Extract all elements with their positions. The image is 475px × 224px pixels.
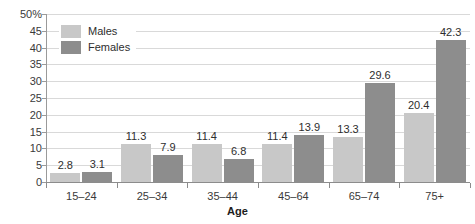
bar-value-label: 11.4 xyxy=(184,131,230,142)
bar-females[interactable] xyxy=(224,159,254,182)
y-axis-labels: 50%454035302520151050 xyxy=(0,0,42,224)
bar-females[interactable] xyxy=(153,155,183,182)
x-axis-tick xyxy=(187,183,188,188)
bar-value-label: 3.1 xyxy=(74,159,120,170)
bar-males[interactable] xyxy=(262,144,292,182)
y-axis-tick-label: 50% xyxy=(0,9,42,20)
bar-value-label: 42.3 xyxy=(428,27,474,38)
legend-label-females: Females xyxy=(88,41,130,53)
x-axis-category-label: 35–44 xyxy=(188,190,258,202)
y-axis-tick-label: 35 xyxy=(0,59,42,70)
chart-legend: Males Females xyxy=(59,21,136,57)
bar-value-label: 11.3 xyxy=(113,131,159,142)
x-axis-category-label: 25–34 xyxy=(117,190,187,202)
bar-females[interactable] xyxy=(82,172,112,182)
y-axis-tick-label: 0 xyxy=(0,177,42,188)
bar-group: 11.413.9 xyxy=(259,14,327,182)
y-axis-line xyxy=(46,14,47,183)
y-axis-tick-label: 45 xyxy=(0,26,42,37)
y-axis-tick-label: 20 xyxy=(0,110,42,121)
legend-swatch-females-icon xyxy=(61,41,81,54)
x-axis-category-label: 75+ xyxy=(400,190,470,202)
bar-group: 13.329.6 xyxy=(330,14,398,182)
x-axis-category-label: 15–24 xyxy=(46,190,116,202)
x-axis-tick xyxy=(258,183,259,188)
y-axis-tick-label: 25 xyxy=(0,93,42,104)
y-axis-tick-label: 5 xyxy=(0,160,42,171)
bar-females[interactable] xyxy=(436,40,466,182)
bar-females[interactable] xyxy=(365,83,395,182)
x-axis-tick xyxy=(46,183,47,188)
x-axis-category-label: 45–64 xyxy=(258,190,328,202)
x-axis-tick xyxy=(329,183,330,188)
bar-females[interactable] xyxy=(294,135,324,182)
bar-value-label: 7.9 xyxy=(145,142,191,153)
bar-males[interactable] xyxy=(333,137,363,182)
legend-item-females: Females xyxy=(61,39,130,55)
x-axis-category-label: 65–74 xyxy=(329,190,399,202)
bar-chart: 50%454035302520151050 2.83.111.37.911.46… xyxy=(0,0,475,224)
x-axis-tick xyxy=(399,183,400,188)
bar-group: 20.442.3 xyxy=(401,14,469,182)
bar-males[interactable] xyxy=(404,113,434,182)
x-axis-tick xyxy=(117,183,118,188)
x-axis-title: Age xyxy=(0,205,475,217)
legend-swatch-males-icon xyxy=(61,25,81,38)
y-axis-tick-label: 10 xyxy=(0,143,42,154)
legend-item-males: Males xyxy=(61,23,130,39)
bar-group: 11.46.8 xyxy=(189,14,257,182)
x-axis-tick xyxy=(470,183,471,188)
y-axis-tick-label: 15 xyxy=(0,127,42,138)
bar-value-label: 6.8 xyxy=(216,146,262,157)
y-axis-tick-label: 40 xyxy=(0,43,42,54)
legend-label-males: Males xyxy=(88,25,117,37)
y-axis-tick-label: 30 xyxy=(0,76,42,87)
bar-value-label: 29.6 xyxy=(357,70,403,81)
bar-males[interactable] xyxy=(50,173,80,182)
